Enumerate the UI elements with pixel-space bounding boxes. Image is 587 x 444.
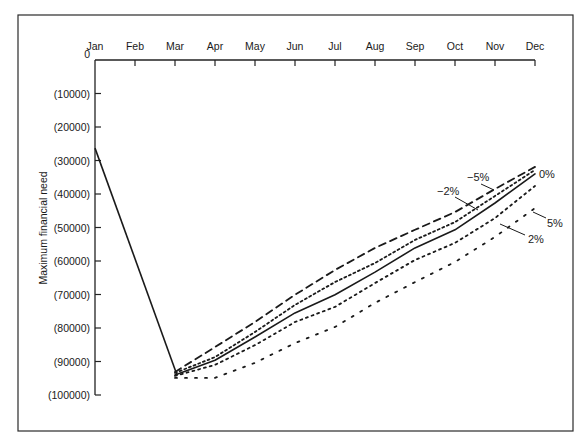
series-line-common-drop <box>95 148 177 375</box>
y-tick-label: (30000) <box>54 155 90 167</box>
y-tick-label: (50000) <box>54 222 90 234</box>
x-tick-label: Nov <box>486 40 505 52</box>
series-line-0pct <box>175 174 535 375</box>
financial-need-chart: JanFebMarAprMayJunJulAugSepOctNovDec0(10… <box>0 0 587 444</box>
y-tick-label: (100000) <box>48 389 90 401</box>
y-tick-label: 0 <box>84 48 90 60</box>
x-tick-label: Jun <box>287 40 304 52</box>
series-label-0pct: 0% <box>539 168 555 180</box>
x-tick-label: Jul <box>328 40 341 52</box>
y-tick-label: (70000) <box>54 289 90 301</box>
y-tick-label: (60000) <box>54 255 90 267</box>
series-label-2pct: 2% <box>528 233 544 245</box>
leader-line <box>500 224 525 235</box>
x-tick-label: Sep <box>406 40 425 52</box>
series-label-minus5pct: −5% <box>467 171 490 183</box>
x-tick-label: Oct <box>447 40 463 52</box>
x-tick-label: May <box>245 40 266 52</box>
leader-line <box>533 212 546 218</box>
y-tick-label: (10000) <box>54 88 90 100</box>
y-tick-label: (40000) <box>54 188 90 200</box>
y-axis-title: Maximum financial need <box>37 171 49 284</box>
series-label-5pct: 5% <box>547 217 563 229</box>
x-tick-label: Apr <box>207 40 224 52</box>
series-line-minus2pct <box>175 170 535 373</box>
x-tick-label: Feb <box>126 40 144 52</box>
leader-line <box>455 197 478 210</box>
leader-line <box>481 184 494 190</box>
series-label-minus2pct: −2% <box>437 185 460 197</box>
y-tick-label: (80000) <box>54 322 90 334</box>
x-tick-label: Aug <box>366 40 385 52</box>
y-tick-label: (90000) <box>54 356 90 368</box>
series-line-minus5pct <box>175 167 535 372</box>
chart-frame <box>18 15 573 431</box>
y-tick-label: (20000) <box>54 121 90 133</box>
x-tick-label: Mar <box>166 40 185 52</box>
x-tick-label: Dec <box>526 40 545 52</box>
